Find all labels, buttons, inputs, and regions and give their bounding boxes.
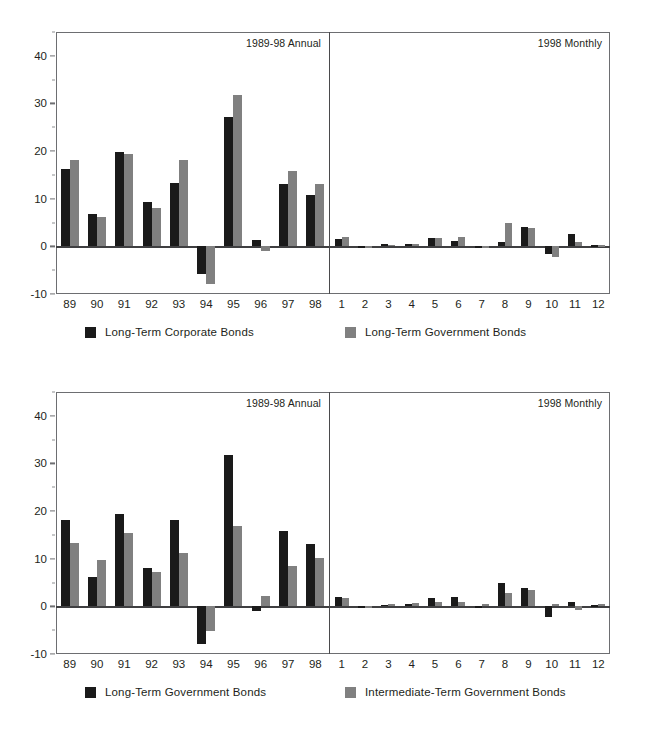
bar: [475, 246, 482, 247]
chart-top: 403020100-10 1989-98 Annual 1998 Monthly…: [0, 0, 647, 370]
y-axis-tick-mark: [50, 653, 55, 654]
x-axis-tick-label: 90: [91, 298, 104, 310]
legend-item: Long-Term Corporate Bonds: [85, 326, 254, 338]
x-axis-tick-label: 4: [408, 658, 414, 670]
bar: [591, 605, 598, 606]
bar: [358, 606, 365, 608]
bar: [306, 195, 315, 246]
bar: [288, 566, 297, 606]
legend-top: Long-Term Corporate Bonds Long-Term Gove…: [0, 326, 647, 352]
x-axis-tick-label: 92: [145, 658, 158, 670]
bar: [405, 604, 412, 606]
bar: [61, 520, 70, 606]
bar: [575, 242, 582, 247]
bar: [70, 543, 79, 606]
x-axis-tick-label: 98: [309, 658, 322, 670]
bar: [179, 160, 188, 247]
x-axis-tick-label: 92: [145, 298, 158, 310]
bar: [197, 606, 206, 643]
bar: [224, 455, 233, 606]
bar: [412, 603, 419, 606]
bar: [458, 602, 465, 607]
x-axis-tick-label: 11: [569, 658, 581, 670]
y-axis-minor-tick: [52, 174, 55, 175]
bar: [88, 214, 97, 246]
y-axis-minor-tick: [52, 439, 55, 440]
x-axis-tick-label: 93: [172, 658, 185, 670]
legend-item: Long-Term Government Bonds: [85, 686, 266, 698]
legend-label: Long-Term Government Bonds: [365, 326, 526, 338]
bar: [279, 531, 288, 607]
bar: [170, 520, 179, 607]
bar: [143, 568, 152, 607]
bar: [435, 602, 442, 607]
bar: [365, 606, 372, 607]
x-axis-tick-label: 93: [172, 298, 185, 310]
y-axis-tick-mark: [50, 150, 55, 151]
y-axis-tick-mark: [50, 463, 55, 464]
bar: [591, 245, 598, 246]
bar: [482, 604, 489, 606]
x-axis-tick-label: 11: [569, 298, 581, 310]
bar: [358, 246, 365, 248]
y-axis-tick-label: 40: [34, 50, 47, 62]
bar: [97, 217, 106, 247]
legend-item: Intermediate-Term Government Bonds: [345, 686, 566, 698]
y-axis-tick-mark: [50, 415, 55, 416]
y-axis-tick-mark: [50, 103, 55, 104]
bar: [252, 606, 261, 610]
bar: [598, 245, 605, 246]
bar: [335, 597, 342, 607]
y-axis-tick-label: 10: [34, 553, 47, 565]
y-axis-tick-label: 40: [34, 410, 47, 422]
x-axis-top: 89909192939495969798123456789101112: [56, 296, 610, 318]
x-axis-tick-label: 94: [200, 658, 213, 670]
legend-item: Long-Term Government Bonds: [345, 326, 526, 338]
x-axis-tick-label: 3: [385, 298, 391, 310]
bar: [70, 160, 79, 246]
bar: [206, 246, 215, 283]
panel-label-annual: 1989-98 Annual: [246, 397, 321, 409]
x-axis-tick-label: 97: [282, 658, 295, 670]
x-axis-tick-label: 9: [525, 298, 531, 310]
y-axis-minor-tick: [52, 79, 55, 80]
x-axis-tick-label: 12: [592, 658, 605, 670]
bar: [458, 237, 465, 247]
y-axis-tick-mark: [50, 246, 55, 247]
x-axis-bottom: 89909192939495969798123456789101112: [56, 656, 610, 678]
bar: [521, 227, 528, 246]
bar: [61, 169, 70, 246]
bar: [451, 597, 458, 607]
bar: [279, 184, 288, 246]
bar: [428, 598, 435, 607]
bar: [342, 598, 349, 606]
legend-bottom: Long-Term Government Bonds Intermediate-…: [0, 686, 647, 712]
panel-monthly-bottom: 1998 Monthly: [330, 392, 610, 654]
bar: [124, 154, 133, 246]
y-axis-tick-label: 0: [41, 600, 47, 612]
bar: [545, 606, 552, 616]
bar: [545, 246, 552, 253]
bar: [568, 602, 575, 607]
bar: [261, 596, 270, 606]
bar: [261, 246, 270, 250]
x-axis-tick-label: 96: [254, 298, 267, 310]
bar: [451, 241, 458, 247]
bar: [97, 560, 106, 606]
x-axis-tick-label: 91: [118, 658, 131, 670]
bar: [152, 208, 161, 247]
bar: [388, 604, 395, 606]
panel-label-monthly: 1998 Monthly: [538, 37, 602, 49]
bar: [315, 184, 324, 246]
bar: [143, 202, 152, 247]
bar: [115, 152, 124, 247]
y-axis-tick-label: 20: [34, 505, 47, 517]
x-axis-tick-label: 8: [502, 658, 508, 670]
bar: [405, 244, 412, 247]
bar: [528, 228, 535, 247]
x-axis-tick-label: 1: [338, 298, 344, 310]
bar: [498, 242, 505, 246]
x-axis-tick-label: 94: [200, 298, 213, 310]
bar: [388, 245, 395, 246]
y-axis-minor-tick: [52, 534, 55, 535]
